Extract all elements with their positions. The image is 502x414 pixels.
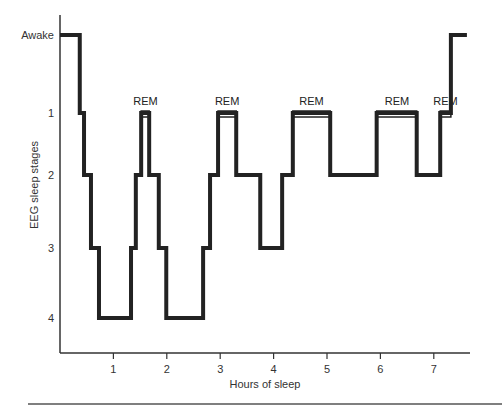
x-tick-label: 2	[164, 363, 170, 375]
rem-annotations: REMREMREMREMREM	[133, 95, 458, 107]
y-axis-title: EEG sleep stages	[28, 140, 40, 229]
rem-label: REM	[433, 95, 457, 107]
x-tick-label: 1	[110, 363, 116, 375]
x-tick-label: 7	[431, 363, 437, 375]
x-axis-title: Hours of sleep	[230, 378, 301, 390]
y-tick-label: Awake	[21, 29, 54, 41]
sleep-stage-step-line	[60, 35, 467, 318]
y-tick-label: 3	[48, 242, 54, 254]
x-tick-label: 3	[217, 363, 223, 375]
hypnogram-chart: Awake1234 1234567 REMREMREMREMREM Hours …	[0, 0, 502, 414]
rem-label: REM	[385, 95, 409, 107]
axes	[60, 15, 470, 353]
x-axis-ticks: 1234567	[110, 353, 437, 375]
x-tick-label: 4	[271, 363, 277, 375]
rem-label: REM	[215, 95, 239, 107]
y-tick-label: 4	[48, 312, 54, 324]
rem-label: REM	[133, 95, 157, 107]
x-tick-label: 5	[324, 363, 330, 375]
x-tick-label: 6	[377, 363, 383, 375]
y-tick-label: 1	[48, 107, 54, 119]
y-tick-label: 2	[48, 169, 54, 181]
rem-label: REM	[299, 95, 323, 107]
